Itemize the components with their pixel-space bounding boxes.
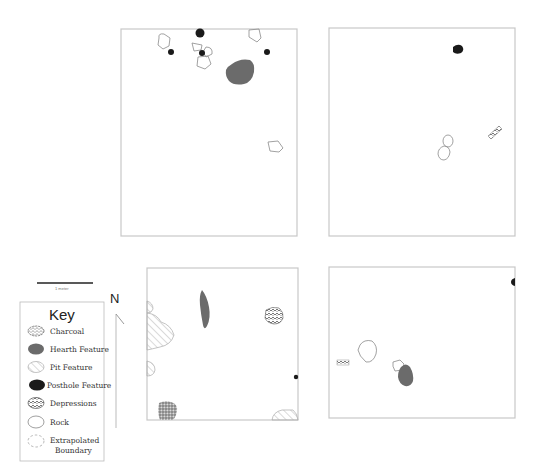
posthole-feature: [294, 375, 298, 379]
posthole-feature: [264, 49, 270, 55]
posthole-symbol-icon: [29, 380, 45, 391]
depression: [337, 360, 349, 365]
excavation-unit-se: [329, 267, 515, 418]
key-item-label: Extrapolated: [50, 436, 99, 445]
depression-symbol-icon: [28, 398, 44, 409]
key-item-label: Hearth Feature: [50, 345, 109, 354]
north-arrow-label: N: [110, 291, 119, 306]
pit-symbol-icon: [28, 362, 44, 373]
key-item-label: Depressions: [50, 399, 97, 408]
excavation-unit-ne: [329, 28, 515, 236]
excavation-unit-sw: [147, 268, 298, 420]
key-title: Key: [49, 306, 75, 323]
posthole-feature: [199, 50, 205, 56]
hearth-symbol-icon: [28, 344, 44, 355]
scale-bar-label: 1 meter: [55, 286, 69, 291]
posthole-feature: [168, 49, 174, 55]
excavation-unit-nw: [121, 29, 297, 237]
key-item-label: Rock: [50, 418, 69, 427]
rock-symbol-icon: [28, 416, 44, 428]
charcoal-symbol-icon: [28, 326, 44, 336]
north-arrow: [116, 314, 124, 428]
depression: [265, 307, 283, 324]
key-item-label: Posthole Feature: [47, 381, 111, 390]
depression: [158, 401, 177, 420]
posthole-feature: [196, 29, 205, 38]
key-item-label-continued: Boundary: [55, 446, 92, 455]
key-item-label: Charcoal: [50, 327, 84, 336]
key-item-label: Pit Feature: [50, 363, 92, 372]
